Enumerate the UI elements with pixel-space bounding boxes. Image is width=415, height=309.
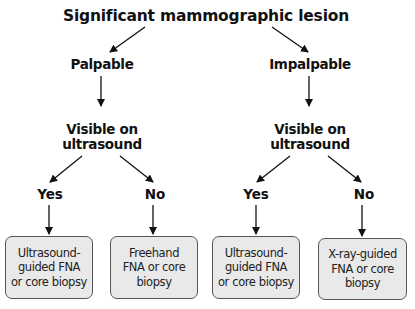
- action-line: Freehand: [123, 246, 186, 261]
- answer-left-no: No: [145, 186, 166, 202]
- answer-left-yes: Yes: [37, 186, 63, 202]
- answer-right-yes: Yes: [243, 186, 269, 202]
- question-right-line2: ultrasound: [270, 137, 350, 152]
- branch-impalpable: Impalpable: [269, 57, 351, 72]
- question-right-line1: Visible on: [270, 122, 350, 137]
- branch-palpable: Palpable: [70, 57, 133, 72]
- question-left-line2: ultrasound: [62, 137, 142, 152]
- arrow-left-question-to-no: [120, 156, 153, 182]
- action-line: FNA or core: [123, 260, 186, 275]
- action-line: Ultrasound-: [11, 246, 87, 261]
- action-line: FNA or core: [328, 262, 397, 277]
- action-line: X-ray-guided: [328, 247, 397, 262]
- action-box-freehand: Freehand FNA or core biopsy: [110, 236, 198, 299]
- action-box-ultrasound-guided-left: Ultrasound- guided FNA or core biopsy: [5, 236, 93, 299]
- action-box-ultrasound-guided-right: Ultrasound- guided FNA or core biopsy: [212, 236, 300, 299]
- question-right: Visible on ultrasound: [270, 122, 350, 152]
- arrow-left-question-to-yes: [50, 156, 82, 182]
- action-line: biopsy: [123, 275, 186, 290]
- arrow-root-to-palpable: [110, 27, 145, 52]
- arrow-right-question-to-no: [328, 156, 361, 182]
- question-left: Visible on ultrasound: [62, 122, 142, 152]
- action-line: or core biopsy: [218, 275, 294, 290]
- question-left-line1: Visible on: [62, 122, 142, 137]
- root-node: Significant mammographic lesion: [63, 7, 349, 25]
- action-box-xray-guided: X-ray-guided FNA or core biopsy: [318, 238, 407, 300]
- action-line: or core biopsy: [11, 275, 87, 290]
- arrow-right-question-to-yes: [257, 156, 290, 182]
- action-line: guided FNA: [11, 260, 87, 275]
- action-line: Ultrasound-: [218, 246, 294, 261]
- action-line: biopsy: [328, 276, 397, 291]
- arrow-root-to-impalpable: [272, 27, 308, 52]
- answer-right-no: No: [354, 186, 375, 202]
- action-line: guided FNA: [218, 260, 294, 275]
